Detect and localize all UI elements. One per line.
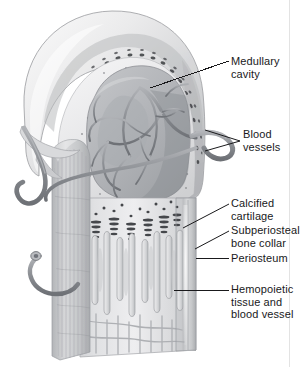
label-line: cartilage [231, 210, 274, 223]
label-line: Hemopoietic [231, 283, 293, 296]
label-line: Medullary [231, 55, 280, 68]
label-calcified-cartilage: Calcified cartilage [231, 197, 274, 222]
label-medullary-cavity: Medullary cavity [231, 55, 280, 80]
label-line: Subperiosteal [231, 224, 300, 237]
label-line: Periosteum [231, 252, 288, 265]
label-subperiosteal-bone-collar: Subperiosteal bone collar [231, 224, 300, 249]
leader-subperiosteal-bone-collar [195, 231, 229, 249]
label-line: blood vessel [231, 308, 293, 321]
label-periosteum: Periosteum [231, 252, 288, 265]
label-line: cavity [231, 68, 280, 81]
label-blood-vessels: Blood vessels [243, 128, 280, 153]
label-line: vessels [243, 141, 280, 154]
label-hemopoietic-tissue: Hemopoietic tissue and blood vessel [231, 283, 293, 321]
label-line: bone collar [231, 237, 300, 250]
label-line: tissue and [231, 296, 293, 309]
label-line: Blood [243, 128, 280, 141]
label-line: Calcified [231, 197, 274, 210]
periosteum-sheath [52, 139, 90, 360]
